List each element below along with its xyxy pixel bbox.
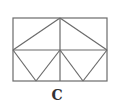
top-triangle-left xyxy=(13,18,60,50)
left-v-left xyxy=(13,50,36,81)
left-v-right xyxy=(36,50,60,81)
figure-label: C xyxy=(0,87,114,103)
top-triangle-right xyxy=(60,18,107,50)
right-v-left xyxy=(60,50,83,81)
right-v-right xyxy=(83,50,107,81)
